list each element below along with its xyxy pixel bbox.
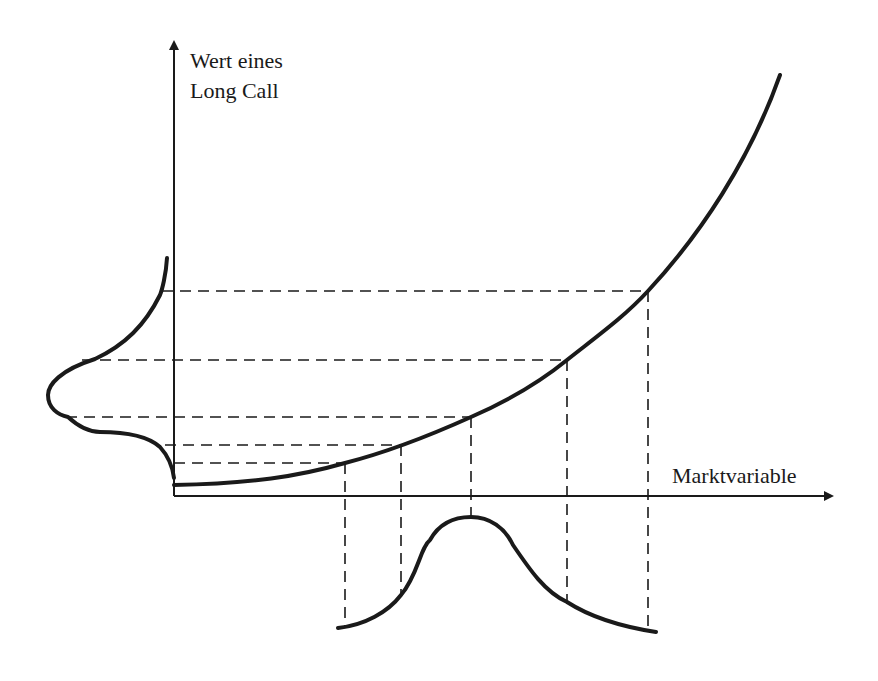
call-value-curve: [174, 75, 780, 485]
long-call-value-diagram: Wert eines Long Call Marktvariable: [0, 0, 878, 681]
vertical-guides: [345, 291, 648, 632]
market-variable-distribution: [338, 517, 656, 632]
y-axis-label-line2: Long Call: [190, 78, 279, 103]
horizontal-guides: [66, 291, 648, 463]
option-value-distribution: [48, 258, 174, 478]
x-axis-label: Marktvariable: [672, 463, 797, 488]
y-axis-label-line1: Wert eines: [190, 48, 283, 73]
